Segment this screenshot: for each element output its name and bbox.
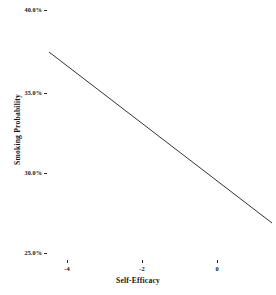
y-tick-mark-35: [44, 93, 47, 94]
x-tick-mark-0: [217, 260, 218, 263]
x-tick-label-neg4: -4: [55, 266, 79, 272]
y-tick-mark-30: [44, 173, 47, 174]
y-tick-label-30: 30.0%: [24, 170, 42, 176]
y-axis-title: Smoking Probability: [13, 65, 22, 195]
x-tick-label-0: 0: [205, 266, 229, 272]
y-tick-label-35: 35.0%: [24, 90, 42, 96]
x-tick-mark-neg4: [67, 260, 68, 263]
y-tick-label-40: 40.0%: [24, 7, 42, 13]
y-tick-mark-25: [44, 253, 47, 254]
x-tick-mark-neg2: [142, 260, 143, 263]
y-tick-mark-40: [44, 10, 47, 11]
y-tick-label-25: 25.0%: [24, 250, 42, 256]
x-tick-label-neg2: -2: [130, 266, 154, 272]
chart-container: 40.0% 35.0% 30.0% 25.0% Smoking Probabil…: [0, 0, 276, 295]
x-axis-title: Self-Efficacy: [0, 276, 276, 285]
trend-line: [49, 52, 272, 223]
